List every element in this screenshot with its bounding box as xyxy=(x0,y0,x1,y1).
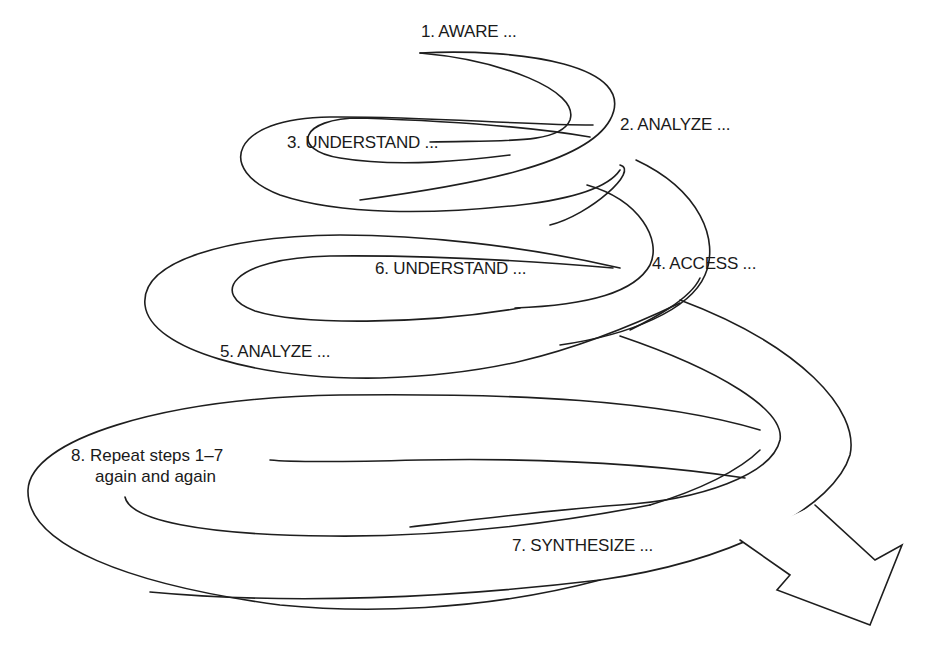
step-8-line-2: again and again xyxy=(71,466,223,487)
step-8-label: 8. Repeat steps 1–7 again and again xyxy=(71,445,223,487)
step-3-label: 3. UNDERSTAND ... xyxy=(287,133,438,153)
spiral-ribbon-diagram xyxy=(0,0,928,653)
step-6-label: 6. UNDERSTAND ... xyxy=(375,259,526,279)
arrow-head-icon xyxy=(740,505,902,625)
step-1-label: 1. AWARE ... xyxy=(421,22,517,42)
step-2-label: 2. ANALYZE ... xyxy=(620,115,730,135)
step-4-label: 4. ACCESS ... xyxy=(652,254,756,274)
step-5-label: 5. ANALYZE ... xyxy=(220,342,330,362)
step-7-label: 7. SYNTHESIZE ... xyxy=(512,536,653,556)
step-8-line-1: 8. Repeat steps 1–7 xyxy=(71,446,223,465)
